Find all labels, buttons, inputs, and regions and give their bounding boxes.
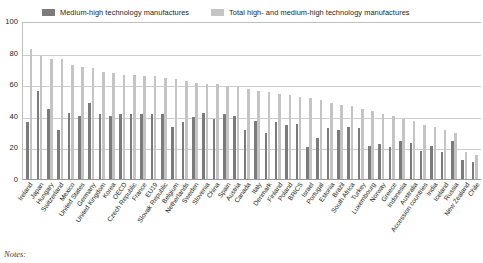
bar-group: [117, 23, 127, 179]
bar-group: [314, 23, 324, 179]
bar-group: [190, 23, 200, 179]
y-axis-tick-label: 100: [5, 18, 18, 26]
bar-group: [76, 23, 86, 179]
bar-total-high-medium-high: [133, 75, 136, 179]
bar-total-high-medium-high: [154, 76, 157, 179]
plot-area-wrapper: 020406080100: [0, 22, 483, 180]
bar-group: [407, 23, 417, 179]
bar-group: [128, 23, 138, 179]
bar-total-high-medium-high: [289, 95, 292, 179]
y-axis-tick-label: 0: [14, 176, 18, 184]
bar-total-high-medium-high: [247, 89, 250, 179]
bar-medium-high: [171, 127, 174, 179]
bar-group: [200, 23, 210, 179]
bar-total-high-medium-high: [195, 83, 198, 179]
bar-total-high-medium-high: [50, 59, 53, 179]
bar-group: [252, 23, 262, 179]
bar-total-high-medium-high: [175, 79, 178, 179]
bar-group: [262, 23, 272, 179]
bar-total-high-medium-high: [102, 72, 105, 179]
bar-total-high-medium-high: [454, 133, 457, 179]
bar-total-high-medium-high: [164, 78, 167, 179]
bar-group: [65, 23, 75, 179]
bar-group: [97, 23, 107, 179]
bar-total-high-medium-high: [475, 155, 478, 179]
bar-medium-high: [192, 117, 195, 179]
bar-total-high-medium-high: [237, 87, 240, 179]
x-axis-tick: Chile: [470, 180, 480, 242]
bar-group: [438, 23, 448, 179]
bar-total-high-medium-high: [423, 125, 426, 179]
bar-medium-high: [430, 146, 433, 179]
bar-medium-high: [37, 91, 40, 179]
legend-entry-total: Total high- and medium-high technology m…: [211, 8, 409, 17]
bar-total-high-medium-high: [81, 67, 84, 179]
notes-label: Notes:: [4, 249, 26, 259]
bar-total-high-medium-high: [216, 84, 219, 179]
bar-group: [345, 23, 355, 179]
bar-total-high-medium-high: [143, 76, 146, 179]
bar-group: [304, 23, 314, 179]
bar-medium-high: [57, 130, 60, 179]
bar-total-high-medium-high: [413, 121, 416, 179]
bar-group: [86, 23, 96, 179]
bar-total-high-medium-high: [185, 81, 188, 179]
legend-entry-medium: Medium-high technology manufactures: [42, 8, 189, 17]
bar-medium-high: [130, 114, 133, 179]
bar-total-high-medium-high: [206, 84, 209, 179]
bar-total-high-medium-high: [299, 97, 302, 179]
bar-total-high-medium-high: [278, 94, 281, 179]
bar-group: [231, 23, 241, 179]
bar-medium-high: [161, 114, 164, 179]
bar-group: [242, 23, 252, 179]
bar-group: [335, 23, 345, 179]
bar-medium-high: [441, 152, 444, 179]
bar-group: [387, 23, 397, 179]
bar-total-high-medium-high: [71, 65, 74, 179]
bar-medium-high: [265, 133, 268, 179]
bar-series-container: [23, 23, 481, 179]
bar-total-high-medium-high: [351, 106, 354, 179]
bar-medium-high: [358, 128, 361, 179]
bar-group: [376, 23, 386, 179]
bar-medium-high: [26, 122, 29, 179]
bar-total-high-medium-high: [465, 152, 468, 179]
bar-group: [34, 23, 44, 179]
bar-medium-high: [223, 114, 226, 179]
bar-group: [428, 23, 438, 179]
bar-medium-high: [233, 116, 236, 179]
legend-swatch-total: [211, 9, 224, 16]
bar-total-high-medium-high: [40, 56, 43, 179]
bar-medium-high: [316, 138, 319, 179]
bar-medium-high: [254, 121, 257, 179]
bar-group: [138, 23, 148, 179]
bar-medium-high: [461, 160, 464, 179]
bar-total-high-medium-high: [340, 105, 343, 179]
bar-group: [469, 23, 479, 179]
bar-group: [283, 23, 293, 179]
bar-medium-high: [306, 147, 309, 179]
chart-legend: Medium-high technology manufactures Tota…: [0, 4, 483, 20]
bar-medium-high: [275, 122, 278, 179]
bar-medium-high: [78, 116, 81, 179]
bar-total-high-medium-high: [320, 100, 323, 179]
y-axis: 020406080100: [0, 22, 20, 180]
bar-total-high-medium-high: [92, 68, 95, 179]
bar-group: [169, 23, 179, 179]
bar-total-high-medium-high: [361, 109, 364, 179]
bar-group: [366, 23, 376, 179]
bar-total-high-medium-high: [226, 86, 229, 179]
plot-area: [22, 22, 481, 180]
bar-group: [24, 23, 34, 179]
bar-total-high-medium-high: [392, 116, 395, 179]
y-axis-tick-label: 80: [10, 50, 18, 58]
bar-medium-high: [327, 128, 330, 179]
bar-group: [418, 23, 428, 179]
bar-group: [459, 23, 469, 179]
legend-label-total: Total high- and medium-high technology m…: [229, 8, 409, 17]
bar-medium-high: [420, 151, 423, 179]
bar-total-high-medium-high: [309, 98, 312, 179]
bar-total-high-medium-high: [257, 91, 260, 179]
bar-medium-high: [151, 114, 154, 179]
bar-group: [273, 23, 283, 179]
